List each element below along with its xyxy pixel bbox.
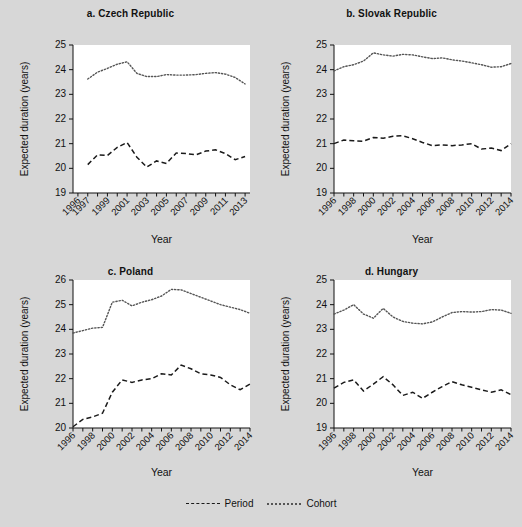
- x-tick-label: 2006: [414, 430, 437, 453]
- panel-d-title: d. Hungary: [261, 266, 522, 277]
- x-tick-label: 2002: [375, 195, 398, 218]
- x-tick-label: 2006: [414, 195, 437, 218]
- x-tick-label: 2010: [453, 195, 476, 218]
- y-tick-label: 22: [316, 348, 328, 359]
- figure-panel-grid: a. Czech Republic 1920212223242519961997…: [0, 0, 522, 527]
- x-tick-label: 2002: [114, 430, 137, 453]
- x-tick-label: 2003: [128, 195, 151, 218]
- x-tick-label: 2013: [227, 195, 250, 218]
- y-tick-label: 25: [55, 299, 67, 310]
- y-tick-label: 23: [55, 348, 67, 359]
- figure-legend: Period Cohort: [0, 498, 522, 509]
- x-tick-label: 2000: [355, 430, 378, 453]
- y-tick-label: 23: [316, 88, 328, 99]
- y-axis-title: Expected duration (years): [280, 297, 291, 412]
- x-tick-label: 2000: [355, 195, 378, 218]
- y-tick-label: 20: [316, 162, 328, 173]
- y-tick-label: 19: [316, 422, 328, 433]
- x-tick-label: 2008: [434, 430, 457, 453]
- y-tick-label: 24: [316, 299, 328, 310]
- y-tick-label: 24: [316, 64, 328, 75]
- x-tick-label: 2002: [375, 430, 398, 453]
- x-tick-label: 2007: [168, 195, 191, 218]
- legend-label-cohort: Cohort: [306, 498, 336, 509]
- y-tick-label: 20: [55, 162, 67, 173]
- y-tick-label: 21: [316, 373, 328, 384]
- x-tick-label: 2010: [192, 430, 215, 453]
- panel-d-hungary: d. Hungary 19202122232425199619982000200…: [261, 258, 522, 488]
- x-tick-label: 2014: [493, 430, 516, 453]
- legend-label-period: Period: [225, 498, 254, 509]
- panel-b-title: b. Slovak Republic: [261, 8, 522, 19]
- y-tick-label: 23: [55, 88, 67, 99]
- x-tick-label: 2008: [434, 195, 457, 218]
- legend-item-period: Period: [186, 498, 254, 509]
- x-tick-label: 2011: [208, 195, 230, 217]
- y-axis-title: Expected duration (years): [19, 62, 30, 177]
- x-tick-label: 1999: [89, 195, 112, 218]
- y-tick-label: 19: [55, 187, 67, 198]
- x-tick-label: 2001: [109, 195, 132, 218]
- x-tick-label: 2009: [187, 195, 210, 218]
- x-tick-label: 2012: [473, 430, 496, 453]
- x-tick-label: 2006: [153, 430, 176, 453]
- x-tick-label: 1998: [74, 430, 97, 453]
- x-tick-label: 2004: [133, 430, 156, 453]
- x-tick-label: 2012: [212, 430, 235, 453]
- y-tick-label: 22: [316, 113, 328, 124]
- x-tick-label: 2014: [232, 430, 255, 453]
- x-axis-title: Year: [151, 466, 173, 478]
- x-axis-title: Year: [151, 233, 173, 245]
- panel-c-title: c. Poland: [0, 266, 261, 277]
- x-tick-label: 2012: [473, 195, 496, 218]
- legend-key-cohort-dotted-line: [267, 503, 301, 505]
- panel-d-plot: 1920212223242519961998200020022004200620…: [261, 258, 522, 473]
- x-tick-label: 2004: [394, 195, 417, 218]
- x-tick-label: 1998: [335, 195, 358, 218]
- y-tick-label: 25: [55, 39, 67, 50]
- panel-b-slovak-republic: b. Slovak Republic 192021222324251996199…: [261, 0, 522, 258]
- x-tick-label: 2010: [453, 430, 476, 453]
- y-tick-label: 23: [316, 323, 328, 334]
- y-tick-label: 21: [55, 397, 67, 408]
- y-axis-title: Expected duration (years): [19, 297, 30, 412]
- panel-a-czech-republic: a. Czech Republic 1920212223242519961997…: [0, 0, 261, 258]
- y-tick-label: 22: [55, 113, 67, 124]
- y-tick-label: 20: [55, 422, 67, 433]
- panel-b-plot: 1920212223242519961998200020022004200620…: [261, 0, 522, 258]
- panel-c-poland: c. Poland 202122232425261996199820002002…: [0, 258, 261, 488]
- y-tick-label: 20: [316, 397, 328, 408]
- y-tick-label: 25: [316, 39, 328, 50]
- y-tick-label: 24: [55, 64, 67, 75]
- y-axis-title: Expected duration (years): [280, 62, 291, 177]
- y-tick-label: 19: [316, 187, 328, 198]
- x-tick-label: 2008: [173, 430, 196, 453]
- y-tick-label: 24: [55, 323, 67, 334]
- panel-c-plot: 2021222324252619961998200020022004200620…: [0, 258, 261, 473]
- x-tick-label: 2014: [493, 195, 516, 218]
- x-tick-label: 2000: [94, 430, 117, 453]
- x-tick-label: 2004: [394, 430, 417, 453]
- x-axis-title: Year: [412, 466, 434, 478]
- panel-a-title: a. Czech Republic: [0, 8, 261, 19]
- y-tick-label: 22: [55, 373, 67, 384]
- legend-key-period-dashed-line: [186, 503, 220, 504]
- x-tick-label: 1998: [335, 430, 358, 453]
- panel-a-plot: 1920212223242519961997199920012003200520…: [0, 0, 261, 258]
- y-tick-label: 21: [316, 138, 328, 149]
- y-tick-label: 21: [55, 138, 67, 149]
- x-axis-title: Year: [412, 233, 434, 245]
- x-tick-label: 2005: [148, 195, 171, 218]
- legend-item-cohort: Cohort: [267, 498, 336, 509]
